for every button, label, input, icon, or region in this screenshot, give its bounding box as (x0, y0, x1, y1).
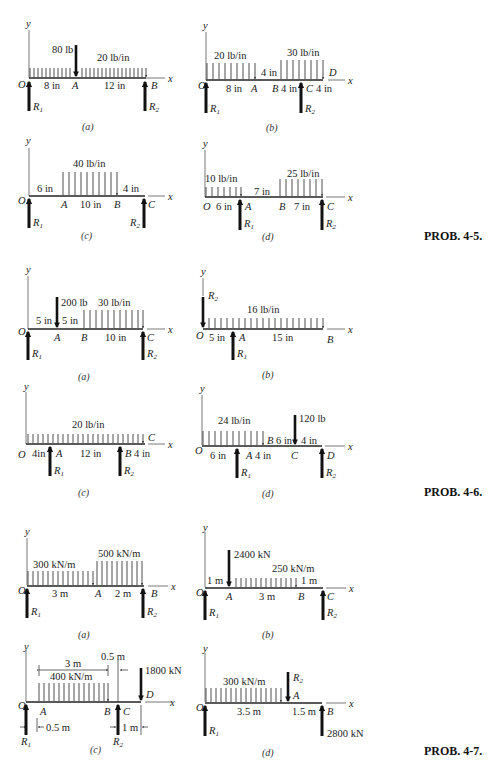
point-a: A (60, 199, 68, 210)
dim-label: 12 in (104, 80, 126, 91)
point-c: C (123, 706, 131, 717)
dim-label: 1 m (122, 722, 138, 733)
panel-4-7-b: y x 2400 kN 250 kN/m 1 m 1 m O A 3 m B C… (196, 522, 354, 641)
distributed-load-label: 300 kN/m (223, 676, 265, 687)
dim-label: 6 in (210, 450, 227, 461)
point-o: O (18, 585, 26, 596)
x-axis-label: x (167, 73, 173, 84)
point-b: B (279, 201, 286, 212)
reaction-r1-label: R1 (32, 217, 43, 230)
caption: (b) (262, 369, 274, 381)
y-axis-label: y (202, 643, 208, 654)
point-b: B (104, 706, 111, 717)
x-axis-label: x (347, 441, 353, 452)
panel-4-6-a: y x 200 lb 30 lb/in 5 in 5 in O A B 10 i… (18, 264, 173, 383)
dim-label: 1 m (301, 575, 317, 586)
distributed-load-label: 24 lb/in (218, 415, 251, 426)
point-d: D (328, 67, 337, 78)
reaction-r2-label: R2 (129, 217, 140, 230)
point-load-label: 200 lb (61, 297, 88, 308)
distributed-load-label: 20 lb/in (214, 50, 247, 61)
reaction-r1-label: R1 (209, 103, 220, 116)
point-a: A (292, 690, 300, 701)
reaction-r2-label: R2 (146, 606, 157, 619)
point-a: A (245, 450, 253, 461)
reaction-r1-label: R1 (208, 725, 219, 738)
reaction-r2-label: R2 (304, 103, 315, 116)
point-c: C (327, 201, 335, 212)
panel-4-6-c: y x 20 lb/in C O 4in A 12 in B 4 in R1 R… (18, 381, 173, 499)
x-axis-label: x (347, 192, 353, 203)
dim-label: 1.5 m (292, 706, 316, 717)
reaction-r1-label: R1 (240, 467, 251, 480)
point-a: A (39, 706, 47, 717)
dim-label: 3 m (52, 588, 68, 599)
point-c: C (148, 432, 156, 443)
y-axis-label: y (25, 18, 31, 29)
beam-problems-figure: y x 80 lb 20 lb/in O 8 in A 12 in B R1 R… (0, 0, 502, 767)
distributed-load-label: 250 kN/m (272, 563, 314, 574)
caption: (a) (82, 121, 94, 133)
distributed-load-label: 25 lb/in (287, 168, 320, 179)
reaction-r1-label: R1 (20, 736, 31, 749)
point-a: A (71, 80, 79, 91)
point-o: O (18, 326, 26, 337)
dim-label: 0.5 m (101, 651, 125, 662)
point-o: O (203, 201, 211, 212)
distributed-load-label: 20 lb/in (97, 52, 130, 63)
distributed-load-label: 30 lb/in (98, 297, 131, 308)
x-axis-label: x (167, 324, 173, 335)
point-b: B (125, 448, 132, 459)
point-o: O (195, 445, 203, 456)
y-axis-label: y (202, 138, 208, 149)
distributed-load-label: 16 lb/in (247, 304, 280, 315)
reaction-r2-label: R2 (112, 736, 123, 749)
point-a: A (225, 591, 233, 602)
point-load-label: 1800 kN (145, 665, 182, 676)
dim-label: 1 m (207, 575, 223, 586)
dim-label: 10 in (105, 332, 127, 343)
caption: (d) (262, 747, 274, 759)
dim-label: 4 in (281, 83, 298, 94)
distributed-load-label: 40 lb/in (73, 158, 106, 169)
point-load-label: 2800 kN (327, 728, 364, 739)
point-o: O (18, 79, 26, 90)
x-axis-label: x (169, 697, 175, 708)
dim-label: 8 in (226, 83, 243, 94)
point-a: A (244, 201, 252, 212)
point-b: B (81, 332, 88, 343)
point-load-label: 80 lb (52, 44, 73, 55)
reaction-r1-label: R1 (31, 348, 42, 361)
dim-label: 7 in (254, 186, 271, 197)
caption: (d) (262, 488, 274, 500)
point-b: B (151, 588, 158, 599)
caption: (a) (78, 629, 90, 641)
point-a: A (53, 332, 61, 343)
problem-label-4-6: PROB. 4-6. (424, 485, 482, 499)
dim-label: 8 in (44, 80, 61, 91)
reaction-r1-label: R1 (243, 218, 254, 231)
caption: (c) (78, 487, 90, 499)
point-b: B (267, 435, 274, 446)
dim-label: 12 in (80, 448, 102, 459)
point-o: O (196, 702, 204, 713)
point-c: C (291, 450, 299, 461)
reaction-r1-label: R1 (53, 465, 64, 478)
point-b: B (327, 706, 334, 717)
dim-label: 6 in (276, 435, 293, 446)
panel-4-5-a: y x 80 lb 20 lb/in O 8 in A 12 in B R1 R… (18, 18, 173, 133)
point-o: O (196, 330, 204, 341)
dim-label: 3 m (65, 658, 81, 669)
x-axis-label: x (347, 324, 353, 335)
reaction-r1-label: R1 (208, 607, 219, 620)
reaction-r2-label: R2 (146, 348, 157, 361)
reaction-r2-label: R2 (326, 607, 337, 620)
x-axis-label: x (348, 698, 354, 709)
point-b: B (272, 83, 279, 94)
panel-4-5-c: y x 40 lb/in 6 in 4 in O A 10 in B C R1 … (18, 135, 173, 242)
dim-label: 4 in (134, 448, 151, 459)
caption: (b) (266, 122, 278, 134)
distributed-load-label: 300 kN/m (33, 559, 75, 570)
distributed-load-label: 400 kN/m (50, 671, 92, 682)
caption: (c) (81, 230, 93, 242)
